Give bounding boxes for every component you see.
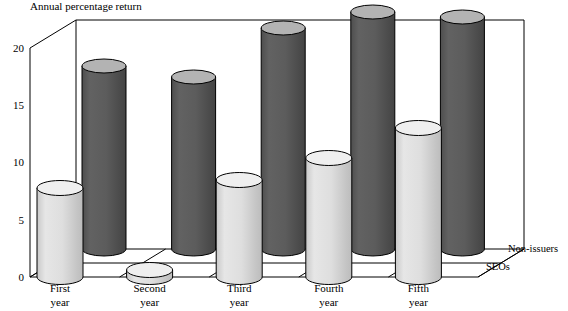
cat-label-fifth-year: Fifth year xyxy=(408,282,430,308)
legend-label-non-issuers: Non-issuers xyxy=(508,243,558,254)
cat-label-third-year: Third year xyxy=(227,282,252,308)
cat-label-fourth-year-line1: Fourth xyxy=(314,282,344,294)
y-axis-title: Annual percentage return xyxy=(30,0,142,12)
bar-seos-fourth-year xyxy=(306,151,352,285)
cat-label-first-year-line2: year xyxy=(51,296,70,308)
y-tick-label-0: 0 xyxy=(19,271,25,283)
bar-non-issuers-third-year xyxy=(261,21,305,256)
cat-label-fifth-year-line2: year xyxy=(409,296,428,308)
cat-label-fourth-year: Fourth year xyxy=(314,282,344,308)
y-axis-ticks: 20 15 10 5 0 xyxy=(13,42,25,283)
cat-label-third-year-line2: year xyxy=(230,296,249,308)
bar-non-issuers-second-year xyxy=(172,70,216,256)
cat-label-second-year-line2: year xyxy=(140,296,159,308)
y-tick-label-5: 5 xyxy=(19,214,25,226)
cat-label-fourth-year-line2: year xyxy=(319,296,338,308)
cat-label-fifth-year-line1: Fifth xyxy=(408,282,430,294)
y-tick-label-20: 20 xyxy=(13,42,25,54)
bar-non-issuers-first-year xyxy=(82,59,126,256)
y-tick-label-15: 15 xyxy=(13,99,25,111)
legend-label-seos: SEOs xyxy=(486,261,510,272)
cat-label-first-year-line1: First xyxy=(50,282,70,294)
legend: Non-issuers SEOs xyxy=(486,243,558,272)
cat-label-first-year: First year xyxy=(50,282,70,308)
chart-container: Annual percentage return 20 15 10 5 0 xyxy=(0,0,568,311)
x-axis-category-labels: First year Second year Third year Fourth… xyxy=(50,282,430,308)
cat-label-second-year: Second year xyxy=(133,282,166,308)
bar-non-issuers-fourth-year xyxy=(351,5,395,256)
y-tick-label-10: 10 xyxy=(13,156,25,168)
bar-seos-third-year xyxy=(216,173,262,285)
bar-chart-3d: Annual percentage return 20 15 10 5 0 xyxy=(0,0,568,311)
bar-seos-fifth-year xyxy=(395,121,441,285)
frame-depth-edge-topleft xyxy=(30,20,76,48)
cat-label-second-year-line1: Second xyxy=(133,282,166,294)
cat-label-third-year-line1: Third xyxy=(227,282,252,294)
bar-non-issuers-fifth-year xyxy=(440,10,484,256)
bar-seos-first-year xyxy=(37,181,83,285)
